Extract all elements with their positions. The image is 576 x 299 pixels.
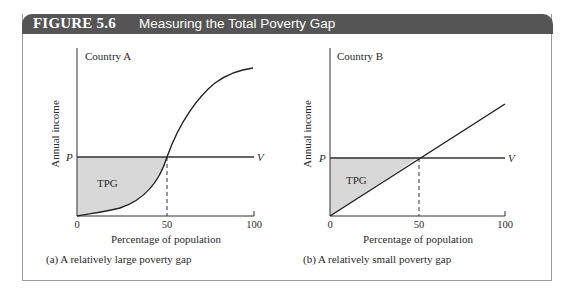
tpg-label-a: TPG xyxy=(97,177,118,189)
panel-a: Country A P V TPG 0 50 100 Percentage of… xyxy=(46,48,265,266)
x-axis-label-b: Percentage of population xyxy=(363,233,473,245)
y-axis-label-b: Annual income xyxy=(301,100,313,168)
tick-50-b: 50 xyxy=(414,219,425,230)
tick-100-a: 100 xyxy=(246,219,262,230)
tick-0-b: 0 xyxy=(327,219,332,230)
tick-0-a: 0 xyxy=(74,219,79,230)
p-label-a: P xyxy=(65,151,73,163)
caption-a: (a) A relatively large poverty gap xyxy=(46,253,192,266)
tick-50-a: 50 xyxy=(162,219,173,230)
y-axis-label-a: Annual income xyxy=(49,100,61,168)
caption-b: (b) A relatively small poverty gap xyxy=(303,253,452,266)
v-label-b: V xyxy=(508,152,516,164)
x-axis-label-a: Percentage of population xyxy=(111,233,221,245)
country-label-a: Country A xyxy=(85,50,131,62)
charts: Country A P V TPG 0 50 100 Percentage of… xyxy=(0,0,576,299)
panel-b: Country B P V TPG 0 50 100 Percentage of… xyxy=(301,48,516,266)
tpg-label-b: TPG xyxy=(346,174,367,186)
v-label-a: V xyxy=(257,151,265,163)
country-label-b: Country B xyxy=(337,50,383,62)
p-label-b: P xyxy=(318,152,326,164)
tick-100-b: 100 xyxy=(497,219,513,230)
